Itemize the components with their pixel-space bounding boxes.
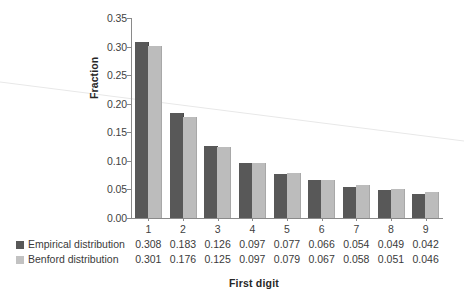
chart-figure: Fraction 0.000.050.100.150.200.250.300.3… [0,0,464,302]
x-axis-title: First digit [0,277,464,289]
bar-benford-8 [391,189,405,218]
x-axis-tick-mark [252,218,253,221]
data-cell: 0.046 [409,253,443,265]
y-axis-tick-label: 0.25 [87,70,127,81]
bar-empirical-9 [412,194,426,218]
x-axis-tick-label: 5 [274,223,300,235]
bar-group [135,18,161,218]
x-axis-tick-label: 9 [413,223,439,235]
x-axis-tick-mark [218,218,219,221]
bar-benford-6 [321,180,335,218]
bar-empirical-8 [378,190,392,218]
x-axis-tick-label: 6 [309,223,335,235]
x-axis-tick-label: 3 [205,223,231,235]
bar-empirical-6 [308,180,322,218]
data-cell: 0.066 [305,238,339,250]
data-cell: 0.126 [201,238,235,250]
bar-benford-5 [287,173,301,218]
x-axis-title-text: First digit [229,277,279,289]
bar-group [274,18,300,218]
data-cell: 0.097 [235,238,269,250]
x-axis-tick-mark [391,218,392,221]
data-cell: 0.054 [339,238,373,250]
legend-label: Benford distribution [28,253,118,265]
legend-swatch [16,241,24,249]
table-row: Empirical distribution0.3080.1830.1260.0… [0,238,464,253]
data-cell: 0.301 [131,253,165,265]
data-cell: 0.049 [374,238,408,250]
bar-group [308,18,334,218]
x-axis-tick-mark [183,218,184,221]
bar-benford-4 [252,163,266,218]
data-cell: 0.058 [339,253,373,265]
table-row: Benford distribution0.3010.1760.1250.097… [0,253,464,268]
bar-benford-2 [183,117,197,218]
bar-empirical-2 [170,113,184,218]
bar-group [239,18,265,218]
bar-group [170,18,196,218]
x-axis-tick-mark [322,218,323,221]
bar-empirical-7 [343,187,357,218]
bar-group [378,18,404,218]
bar-empirical-4 [239,163,253,218]
data-cell: 0.051 [374,253,408,265]
bar-benford-9 [425,192,439,218]
bar-benford-1 [148,46,162,218]
data-cell: 0.077 [270,238,304,250]
data-table: Empirical distribution0.3080.1830.1260.0… [0,238,464,272]
y-axis-tick-label: 0.20 [87,99,127,110]
bar-group [412,18,438,218]
x-axis-tick-label: 7 [343,223,369,235]
y-axis-tick-label: 0.05 [87,184,127,195]
y-axis-tick-label: 0.15 [87,127,127,138]
data-cell: 0.067 [305,253,339,265]
bar-empirical-3 [204,146,218,218]
bar-group [204,18,230,218]
y-axis-tick-label: 0.35 [87,13,127,24]
data-cell: 0.125 [201,253,235,265]
plot-area [131,18,443,218]
data-cell: 0.308 [131,238,165,250]
x-axis-tick-mark [287,218,288,221]
data-cell: 0.042 [409,238,443,250]
bar-benford-7 [356,185,370,218]
data-cell: 0.183 [166,238,200,250]
x-axis-tick-label: 1 [135,223,161,235]
bar-benford-3 [217,147,231,218]
x-axis-tick-mark [356,218,357,221]
legend-swatch [16,256,24,264]
legend-label: Empirical distribution [28,238,125,250]
x-axis-tick-mark [426,218,427,221]
x-axis-tick-mark [148,218,149,221]
y-axis-tick-label: 0.00 [87,213,127,224]
x-axis-tick-label: 8 [378,223,404,235]
data-cell: 0.079 [270,253,304,265]
x-axis-tick-label: 4 [239,223,265,235]
bar-empirical-1 [135,42,149,218]
y-axis-tick-label: 0.10 [87,156,127,167]
bar-empirical-5 [274,174,288,218]
x-axis-tick-label: 2 [170,223,196,235]
bar-group [343,18,369,218]
data-cell: 0.097 [235,253,269,265]
data-cell: 0.176 [166,253,200,265]
y-axis-tick-label: 0.30 [87,42,127,53]
